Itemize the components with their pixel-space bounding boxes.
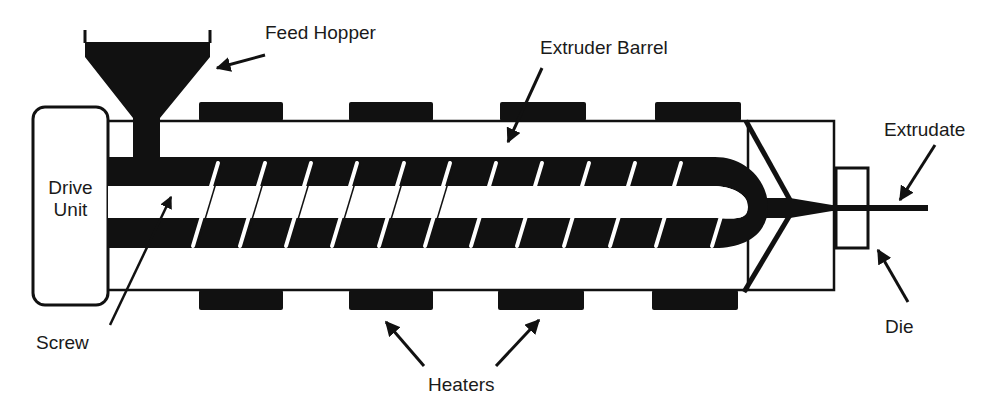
extrudate-arrow (900, 145, 935, 200)
heater-top-4 (655, 102, 741, 121)
feed-hopper-label: Feed Hopper (265, 22, 376, 44)
heater-bottom-3 (498, 290, 584, 310)
heaters-arrow-right (496, 320, 539, 366)
heater-bottom-4 (652, 290, 738, 310)
screw-label: Screw (36, 332, 89, 354)
die-label: Die (885, 316, 914, 338)
extrudate-label: Extrudate (884, 119, 965, 141)
heater-bottom-1 (199, 290, 283, 310)
heater-top-1 (199, 102, 283, 121)
extruder-barrel-label: Extruder Barrel (540, 37, 668, 59)
extruder-diagram (0, 0, 1006, 413)
drive-unit-label: Drive Unit (33, 177, 108, 221)
heater-top-3 (500, 102, 586, 121)
heaters-arrow-left (386, 322, 424, 366)
heater-top-2 (349, 102, 433, 121)
heaters-top (199, 102, 741, 121)
drive-unit-label-line1: Drive (33, 177, 108, 199)
drive-unit-label-line2: Unit (33, 199, 108, 221)
die-arrow (878, 250, 908, 302)
feed-hopper-arrow (217, 55, 265, 68)
heater-bottom-2 (349, 290, 433, 310)
heaters-label: Heaters (428, 374, 495, 396)
heaters-bottom (199, 290, 738, 310)
